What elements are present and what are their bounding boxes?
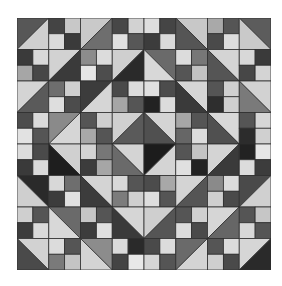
four-patch-unit <box>81 113 113 145</box>
patch-square <box>17 144 33 160</box>
four-patch-unit <box>49 81 81 113</box>
half-square-triangle-unit <box>144 207 176 239</box>
half-square-triangle-unit <box>144 144 176 176</box>
half-square-triangle-unit <box>208 144 240 176</box>
four-patch-unit <box>81 207 113 239</box>
patch-square <box>112 176 128 192</box>
patch-square <box>112 191 128 207</box>
four-patch-unit <box>239 144 271 176</box>
half-square-triangle-unit <box>144 113 176 145</box>
four-patch-unit <box>81 50 113 82</box>
patch-square <box>17 65 33 81</box>
patch-square <box>112 18 128 34</box>
patch-square <box>223 34 239 50</box>
half-square-triangle-unit <box>112 50 144 82</box>
patch-square <box>17 113 33 129</box>
patch-square <box>208 97 224 113</box>
patch-square <box>255 50 271 66</box>
patch-square <box>81 207 97 223</box>
patch-square <box>176 128 192 144</box>
patch-square <box>65 81 81 97</box>
patch-square <box>49 176 65 192</box>
four-patch-unit <box>176 207 208 239</box>
patch-square <box>128 239 144 255</box>
patch-square <box>33 128 49 144</box>
patch-square <box>176 207 192 223</box>
four-patch-unit <box>208 176 240 208</box>
patch-square <box>223 18 239 34</box>
half-square-triangle-unit <box>239 239 271 271</box>
patch-square <box>192 50 208 66</box>
four-patch-unit <box>239 113 271 145</box>
patch-square <box>49 97 65 113</box>
half-square-triangle-unit <box>239 18 271 50</box>
patch-square <box>81 160 97 176</box>
patch-square <box>96 223 112 239</box>
patch-square <box>176 50 192 66</box>
half-square-triangle-unit <box>239 81 271 113</box>
patch-square <box>33 50 49 66</box>
patch-square <box>239 113 255 129</box>
patch-square <box>33 65 49 81</box>
patch-square <box>208 18 224 34</box>
patch-square <box>96 128 112 144</box>
patch-square <box>96 50 112 66</box>
patch-square <box>49 191 65 207</box>
half-square-triangle-unit <box>17 81 49 113</box>
four-patch-unit <box>239 207 271 239</box>
four-patch-unit <box>176 144 208 176</box>
four-patch-unit <box>112 239 144 271</box>
patch-square <box>144 176 160 192</box>
patch-square <box>96 113 112 129</box>
patch-square <box>65 176 81 192</box>
patch-square <box>144 97 160 113</box>
patch-square <box>128 81 144 97</box>
patch-square <box>49 18 65 34</box>
patch-square <box>128 97 144 113</box>
patch-square <box>160 81 176 97</box>
patch-square <box>223 81 239 97</box>
patch-square <box>128 18 144 34</box>
half-square-triangle-unit <box>81 239 113 271</box>
patch-square <box>208 191 224 207</box>
patch-square <box>192 65 208 81</box>
patch-square <box>81 128 97 144</box>
patch-square <box>49 239 65 255</box>
patch-square <box>255 223 271 239</box>
patch-square <box>112 254 128 270</box>
half-square-triangle-unit <box>112 144 144 176</box>
half-square-triangle-unit <box>144 50 176 82</box>
patch-square <box>17 160 33 176</box>
patch-square <box>223 239 239 255</box>
patch-square <box>192 128 208 144</box>
patch-square <box>255 160 271 176</box>
half-square-triangle-unit <box>49 207 81 239</box>
patch-square <box>255 113 271 129</box>
patch-square <box>176 65 192 81</box>
patch-square <box>239 65 255 81</box>
four-patch-unit <box>112 176 144 208</box>
patch-square <box>49 34 65 50</box>
patch-square <box>176 113 192 129</box>
patch-square <box>192 160 208 176</box>
patch-square <box>128 34 144 50</box>
patch-square <box>160 34 176 50</box>
patch-square <box>17 207 33 223</box>
four-patch-unit <box>49 176 81 208</box>
patch-square <box>33 223 49 239</box>
patch-square <box>144 254 160 270</box>
half-square-triangle-unit <box>17 176 49 208</box>
patch-square <box>192 113 208 129</box>
patch-square <box>81 50 97 66</box>
four-patch-unit <box>49 239 81 271</box>
patch-square <box>223 191 239 207</box>
patch-square <box>112 34 128 50</box>
patch-square <box>65 34 81 50</box>
patch-square <box>17 223 33 239</box>
patch-square <box>144 81 160 97</box>
patch-square <box>255 144 271 160</box>
patch-square <box>65 191 81 207</box>
quilt-grid <box>17 18 271 270</box>
half-square-triangle-unit <box>49 144 81 176</box>
four-patch-unit <box>112 81 144 113</box>
